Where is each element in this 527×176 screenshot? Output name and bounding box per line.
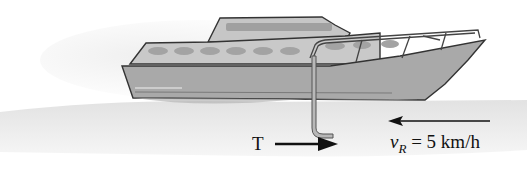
relative-velocity-label: vR = 5 km/h xyxy=(390,131,480,153)
thrust-label: T xyxy=(252,133,264,155)
velocity-value: = 5 km/h xyxy=(406,131,480,152)
cabin-upper-window xyxy=(226,23,332,31)
velocity-subscript: R xyxy=(398,141,406,156)
